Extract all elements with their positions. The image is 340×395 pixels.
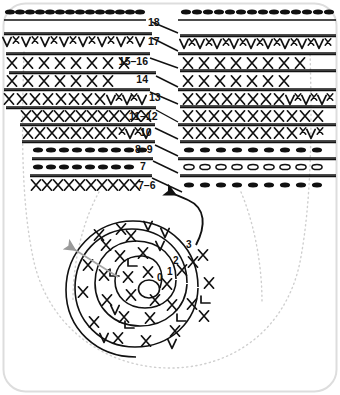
row-label-13: 13 — [149, 91, 161, 103]
row-8-9-left-stitches — [33, 148, 147, 153]
row-label-14: 14 — [136, 73, 148, 85]
spiral-round-label-3: 3 — [186, 239, 192, 250]
row-label-8-9: 8–9 — [135, 143, 153, 155]
row-8-9-right-stitches — [184, 148, 322, 153]
row-7-6-right-stitches — [184, 183, 322, 188]
spiral-round-label-0: 0 — [157, 272, 163, 283]
stitch-chart-figure: 18 17 15–16 14 13 11–12 10 8–9 7 7–6 — [0, 0, 340, 395]
figure-frame — [4, 4, 337, 392]
row-label-7-6: 7–6 — [138, 179, 156, 191]
chart-canvas: 18 17 15–16 14 13 11–12 10 8–9 7 7–6 — [0, 0, 340, 395]
row-label-18: 18 — [148, 16, 160, 28]
row-label-10: 10 — [140, 126, 152, 138]
spiral-round-label-2: 2 — [173, 255, 179, 266]
spiral-round-label-1: 1 — [167, 266, 173, 277]
row-label-15-16: 15–16 — [119, 55, 148, 67]
row-label-7: 7 — [140, 160, 146, 172]
row-label-17: 17 — [148, 35, 160, 47]
row-label-11-12: 11–12 — [129, 110, 158, 122]
